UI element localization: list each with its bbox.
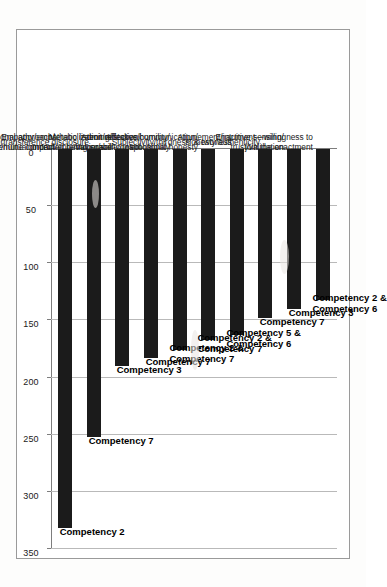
category-label-line: equality/mutual impact (0, 142, 55, 152)
bar-annotation-line: Competency 2 (60, 527, 125, 538)
plot-area: 050100150200250300350 Competency 2 &Comp… (51, 148, 337, 548)
value-axis-tick (47, 205, 51, 206)
bar-annotation-line: Competency 2 & (169, 343, 243, 354)
bar-row: Competency 7Metabolization/reflection/co… (144, 148, 158, 548)
bar[interactable] (58, 149, 72, 528)
value-axis-tick (47, 262, 51, 263)
value-axis-tick (47, 490, 51, 491)
bar-row: Competency 3Empathy/empathetic listening… (115, 148, 129, 548)
bar-annotation-line: Competency 3 (117, 364, 182, 375)
bar[interactable] (144, 149, 158, 358)
bar-annotation-line: Competency 7 (89, 435, 154, 446)
bar-annotation-line: Competency 2 & (312, 293, 386, 304)
bar-annotation: Competency 7 (89, 435, 154, 446)
bar[interactable] (316, 149, 330, 300)
bar-row: Competency 2 &Competency 6Enactment—will… (316, 148, 330, 548)
category-label-line: Mutuality/interpersonal approach/ (0, 131, 55, 141)
bar-annotation: Competency 2 (60, 527, 125, 538)
bar-annotation: Competency 7 (260, 316, 325, 327)
value-axis-tick (47, 548, 51, 549)
value-axis-tick-label: 250 (18, 433, 44, 443)
value-axis-tick-label: 50 (18, 205, 44, 215)
bar[interactable] (287, 149, 301, 309)
bar-row: Competency 7Countertransference disclosu… (87, 148, 101, 548)
bar[interactable] (115, 149, 129, 366)
value-axis-tick-label: 100 (18, 262, 44, 272)
bar-row: Competency 2Mutuality/interpersonal appr… (58, 148, 72, 548)
bar[interactable] (87, 149, 101, 437)
value-axis-tick (47, 376, 51, 377)
bar-annotation-line: Competency 7 (260, 316, 325, 327)
bar-annotation: Competency 3 (117, 364, 182, 375)
bar[interactable] (173, 149, 187, 350)
plot-inner: 050100150200250300350 Competency 2 &Comp… (51, 148, 337, 548)
bar[interactable] (230, 149, 244, 335)
value-axis-tick-label: 350 (18, 548, 44, 558)
bar-row: Competency 2 &Competency 7Admit mistakes… (173, 148, 187, 548)
value-axis-tick (47, 319, 51, 320)
bar[interactable] (201, 149, 215, 340)
category-axis-label: Mutuality/interpersonal approach/equalit… (0, 131, 55, 151)
value-axis-tick-label: 200 (18, 376, 44, 386)
bar[interactable] (258, 149, 272, 318)
value-axis-tick-label: 300 (18, 490, 44, 500)
value-axis-tick (47, 433, 51, 434)
value-axis-tick-label: 150 (18, 319, 44, 329)
bar-chart: 050100150200250300350 Competency 2 &Comp… (16, 29, 350, 559)
value-axis-line (51, 148, 52, 548)
